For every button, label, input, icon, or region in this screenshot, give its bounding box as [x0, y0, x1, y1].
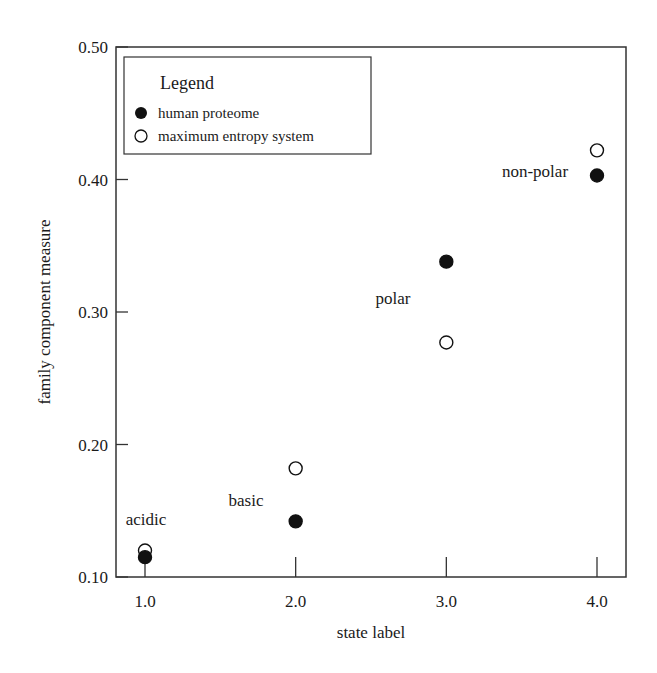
x-tick-label: 4.0: [586, 592, 607, 611]
legend-entry-maximum-entropy-system: maximum entropy system: [158, 128, 314, 144]
human-proteome-point: [440, 255, 453, 268]
max-entropy-point: [591, 144, 604, 157]
annotation-polar: polar: [376, 289, 411, 308]
annotation-non-polar: non-polar: [502, 162, 568, 181]
y-axis: 0.100.200.300.400.50: [78, 38, 128, 587]
y-tick-label: 0.20: [78, 436, 108, 455]
x-axis-title: state label: [337, 623, 406, 642]
legend: Legend human proteome maximum entropy sy…: [124, 57, 371, 154]
y-tick-label: 0.50: [78, 38, 108, 57]
data-points: [139, 144, 604, 564]
human-proteome-point: [289, 515, 302, 528]
legend-entry-human-proteome: human proteome: [158, 105, 260, 121]
y-tick-label: 0.10: [78, 568, 108, 587]
human-proteome-point: [139, 551, 152, 564]
y-tick-label: 0.30: [78, 303, 108, 322]
filled-circle-icon: [135, 107, 147, 119]
annotation-basic: basic: [229, 491, 264, 510]
human-proteome-point: [591, 169, 604, 182]
y-axis-title: family component measure: [35, 219, 54, 404]
x-tick-label: 1.0: [134, 592, 155, 611]
x-tick-label: 2.0: [285, 592, 306, 611]
annotations: acidicbasicpolarnon-polar: [126, 162, 569, 529]
x-axis: 1.02.03.04.0: [134, 557, 607, 611]
open-circle-icon: [135, 130, 147, 142]
annotation-acidic: acidic: [126, 510, 167, 529]
legend-title: Legend: [160, 73, 214, 93]
y-tick-label: 0.40: [78, 171, 108, 190]
x-tick-label: 3.0: [436, 592, 457, 611]
scatter-chart: 0.100.200.300.400.50 1.02.03.04.0 acidic…: [0, 0, 657, 673]
max-entropy-point: [289, 462, 302, 475]
max-entropy-point: [440, 336, 453, 349]
